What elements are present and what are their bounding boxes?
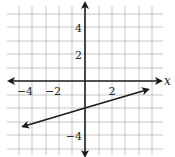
x-tick-minus-4: −4 [17,85,33,98]
y-tick-4: 4 [75,22,82,35]
y-tick-2: 2 [75,49,82,62]
x-tick-2: 2 [109,85,116,98]
plotted-line [85,90,148,109]
y-tick-minus-4: −4 [66,130,82,143]
x-tick-minus-2: −2 [45,85,61,98]
coordinate-plane: x −4 −2 2 4 2 −4 [0,0,175,157]
x-axis-label: x [164,74,171,88]
